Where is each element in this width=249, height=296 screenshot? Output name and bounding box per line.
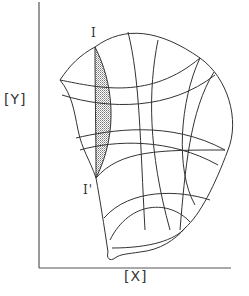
y-axis-label: [Y] bbox=[4, 91, 26, 107]
axes bbox=[39, 2, 231, 268]
grid-lines bbox=[60, 32, 225, 248]
point-label-i: I bbox=[91, 26, 97, 40]
blob-outline bbox=[60, 33, 233, 259]
diagram-figure: [Y] [X] I I' bbox=[0, 0, 249, 296]
point-label-i-prime: I' bbox=[83, 183, 93, 197]
x-axis-label: [X] bbox=[124, 268, 148, 284]
diagram-canvas bbox=[0, 0, 249, 296]
